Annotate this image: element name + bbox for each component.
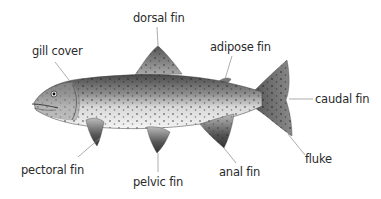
pelvic-fin-label: pelvic fin	[133, 175, 183, 189]
pectoral-fin-leader	[78, 138, 100, 157]
fluke-leader	[288, 134, 305, 155]
gill-cover-label: gill cover	[32, 44, 83, 58]
adipose-fin-leader	[225, 56, 232, 79]
pelvic-fin-shape	[147, 127, 170, 153]
dorsal-fin-leader	[157, 27, 158, 46]
anal-fin-leader	[224, 148, 236, 163]
fluke-label: fluke	[305, 152, 332, 166]
fish-anatomy-diagram: dorsal fin gill cover adipose fin caudal…	[0, 0, 381, 199]
dorsal-fin-label: dorsal fin	[133, 11, 185, 25]
gill-cover-shape	[34, 82, 79, 120]
adipose-fin-label: adipose fin	[210, 40, 271, 54]
gill-cover-leader	[55, 62, 69, 80]
pectoral-fin-shape	[86, 118, 104, 146]
anal-fin-label: anal fin	[219, 165, 260, 179]
pectoral-fin-label: pectoral fin	[21, 163, 84, 177]
caudal-fin-label: caudal fin	[315, 92, 369, 106]
